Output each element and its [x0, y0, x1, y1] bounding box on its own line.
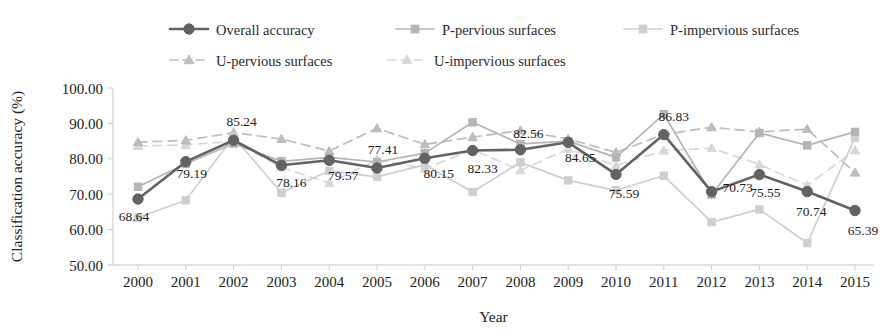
data-point-marker: [563, 137, 573, 147]
data-point-marker: [467, 145, 477, 155]
x-axis-tick-label: 2001: [171, 274, 201, 290]
data-point-marker: [802, 186, 812, 196]
legend-item-u-pervious-surfaces[interactable]: U-pervious surfaces: [170, 53, 333, 69]
data-point-marker: [756, 129, 763, 136]
data-point-marker: [276, 160, 286, 170]
data-point-label: 80.15: [424, 166, 455, 181]
data-point-marker: [660, 172, 667, 179]
data-point-marker: [706, 186, 716, 196]
data-point-marker: [611, 169, 621, 179]
legend-item-p-pervious-surfaces[interactable]: P-pervious surfaces: [396, 22, 556, 38]
data-point-label: 86.83: [659, 109, 690, 124]
data-point-label: 70.74: [796, 204, 827, 219]
data-point-marker: [134, 183, 141, 190]
data-point-marker: [373, 173, 380, 180]
data-point-marker: [133, 194, 143, 204]
data-point-label: 75.55: [750, 185, 781, 200]
data-point-label: 75.59: [609, 186, 640, 201]
legend-label: Overall accuracy: [216, 22, 315, 38]
legend-marker: [639, 25, 647, 33]
data-point-marker: [707, 123, 716, 131]
x-axis-tick-label: 2010: [601, 274, 631, 290]
data-point-marker: [372, 163, 382, 173]
x-axis-tick-label: 2009: [553, 274, 583, 290]
y-axis-tick-label: 60.00: [69, 222, 103, 238]
legend-marker: [411, 25, 419, 33]
x-axis-tick-label: 2002: [219, 274, 249, 290]
x-axis-tick-label: 2008: [505, 274, 535, 290]
data-point-label: 68.64: [119, 209, 150, 224]
data-point-marker: [754, 169, 764, 179]
y-axis-tick-label: 100.00: [62, 81, 103, 97]
x-axis-tick-label: 2000: [123, 274, 153, 290]
x-axis-tick-label: 2005: [362, 274, 392, 290]
data-point-marker: [420, 153, 430, 163]
data-point-label: 78.16: [276, 175, 307, 190]
legend-item-p-impervious-surfaces[interactable]: P-impervious surfaces: [624, 22, 800, 38]
data-point-marker: [515, 145, 525, 155]
chart-container: 50.0060.0070.0080.0090.00100.00200020012…: [0, 0, 881, 331]
legend-item-overall-accuracy[interactable]: Overall accuracy: [170, 22, 315, 38]
data-point-label: 79.19: [177, 166, 208, 181]
y-axis-tick-label: 80.00: [69, 151, 103, 167]
legend-item-u-impervious-surfaces[interactable]: U-impervious surfaces: [388, 53, 566, 69]
x-axis-tick-label: 2012: [697, 274, 727, 290]
data-point-label: 84.65: [565, 150, 596, 165]
data-point-marker: [850, 205, 860, 215]
data-point-marker: [612, 154, 619, 161]
x-axis-tick-label: 2013: [744, 274, 774, 290]
data-point-marker: [708, 218, 715, 225]
data-point-marker: [324, 155, 334, 165]
data-point-label: 65.39: [848, 223, 879, 238]
x-axis-tick-label: 2003: [266, 274, 296, 290]
y-axis-tick-label: 50.00: [69, 258, 103, 274]
classification-accuracy-line-chart: 50.0060.0070.0080.0090.00100.00200020012…: [0, 0, 881, 331]
data-point-marker: [469, 119, 476, 126]
y-axis-title: Classification accuracy (%): [8, 91, 26, 262]
data-point-marker: [659, 129, 669, 139]
x-axis-tick-label: 2004: [314, 274, 345, 290]
y-axis-tick-label: 70.00: [69, 187, 103, 203]
legend-label: P-impervious surfaces: [670, 22, 800, 38]
x-axis-tick-label: 2014: [792, 274, 823, 290]
chart-legend: Overall accuracyP-pervious surfacesP-imp…: [170, 22, 800, 69]
data-point-label: 82.33: [467, 161, 498, 176]
legend-marker: [184, 24, 194, 34]
data-point-marker: [372, 124, 381, 132]
x-axis-tick-label: 2015: [840, 274, 870, 290]
data-point-label: 85.24: [226, 114, 257, 129]
data-point-marker: [756, 206, 763, 213]
data-point-label: 70.73: [722, 180, 753, 195]
data-point-marker: [228, 135, 238, 145]
data-point-marker: [565, 177, 572, 184]
x-axis-tick-label: 2007: [458, 274, 489, 290]
data-point-marker: [850, 168, 859, 176]
x-axis-title: Year: [479, 308, 508, 325]
data-point-label: 77.41: [368, 142, 398, 157]
data-point-marker: [182, 197, 189, 204]
data-point-marker: [804, 239, 811, 246]
data-point-marker: [469, 188, 476, 195]
data-point-label: 82.56: [513, 126, 544, 141]
x-axis-tick-label: 2011: [649, 274, 678, 290]
legend-label: U-impervious surfaces: [434, 53, 566, 69]
data-point-marker: [517, 159, 524, 166]
x-axis-tick-label: 2006: [410, 274, 441, 290]
data-point-marker: [804, 142, 811, 149]
y-axis-tick-label: 90.00: [69, 116, 103, 132]
data-point-label: 79.57: [328, 168, 359, 183]
legend-label: U-pervious surfaces: [216, 53, 333, 69]
data-point-marker: [851, 128, 858, 135]
legend-label: P-pervious surfaces: [442, 22, 556, 38]
